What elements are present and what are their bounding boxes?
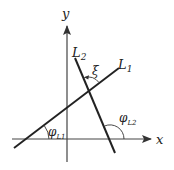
- angle-phi-L2-label: φL2: [119, 111, 137, 127]
- diagram-canvas: y x L2 L1 ξ φL1 φL2: [0, 0, 174, 170]
- angle-xi-label: ξ: [92, 64, 100, 78]
- line-L2-label: L2: [71, 45, 87, 62]
- y-axis-label: y: [61, 6, 70, 21]
- line-L1-label: L1: [117, 57, 132, 74]
- angle-phi-L1-label: φL1: [48, 125, 66, 141]
- x-axis-label: x: [156, 132, 164, 147]
